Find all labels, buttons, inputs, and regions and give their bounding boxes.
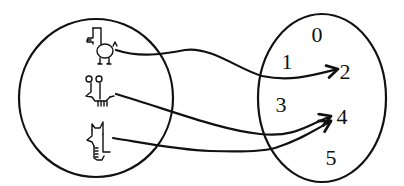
codomain-element-1: 1 [282, 51, 293, 73]
mapping-arrow-creature-1-to-2 [116, 50, 338, 79]
codomain-element-5: 5 [326, 147, 337, 169]
creature-3-cat-icon [87, 122, 110, 160]
mapping-arrow-creature-3-to-4 [113, 121, 331, 152]
mapping-diagram [0, 0, 404, 186]
mapping-arrow-creature-2-to-4 [116, 94, 331, 135]
codomain-element-3: 3 [276, 94, 287, 116]
codomain-element-0: 0 [312, 24, 323, 46]
codomain-element-4: 4 [337, 106, 348, 128]
creature-1-bird-icon [87, 28, 117, 64]
creature-2-mouse-icon [86, 76, 114, 106]
codomain-element-2: 2 [340, 61, 351, 83]
